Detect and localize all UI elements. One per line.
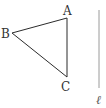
- triangle-abc: [12, 18, 67, 77]
- geometry-diagram: A B C ℓ: [0, 0, 106, 108]
- vertex-label-a: A: [62, 4, 72, 18]
- vertex-label-b: B: [1, 27, 10, 41]
- vertex-label-c: C: [61, 80, 70, 94]
- line-label-l: ℓ: [96, 93, 101, 107]
